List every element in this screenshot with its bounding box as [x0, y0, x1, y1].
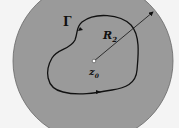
- radius-subscript: 2: [112, 35, 117, 44]
- label-gamma: Γ: [63, 15, 72, 29]
- center-subscript: 0: [95, 72, 99, 79]
- diagram-canvas: Γ R2 z0: [0, 0, 179, 128]
- label-radius: R2: [103, 29, 117, 44]
- label-center: z0: [89, 66, 99, 79]
- disk: [13, 0, 173, 128]
- diagram-graphic: [0, 0, 179, 128]
- center-point: [92, 59, 96, 63]
- radius-letter: R: [103, 29, 112, 42]
